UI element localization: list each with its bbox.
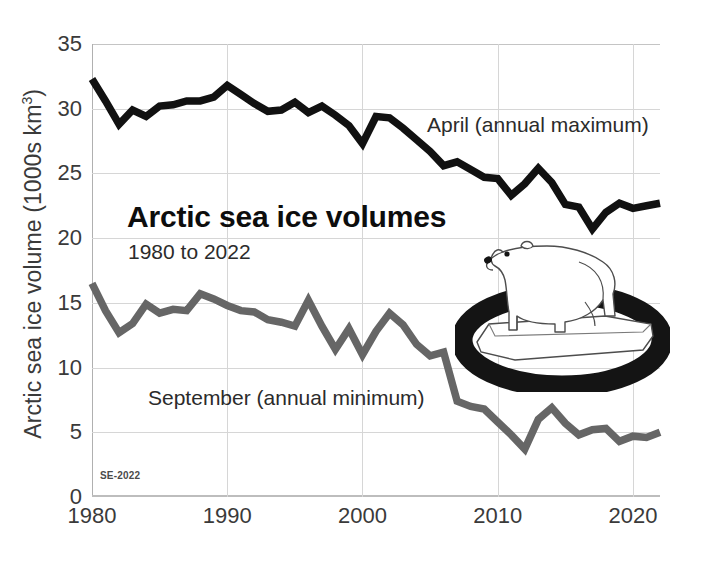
y-tick-label: 30 [42, 96, 82, 122]
polar-bear-icon [455, 232, 670, 392]
y-axis-title-exponent: 3 [19, 97, 35, 105]
x-tick-label: 2010 [473, 503, 522, 529]
x-tick-label: 2020 [608, 503, 657, 529]
september-series-label: September (annual minimum) [148, 386, 425, 410]
polar-bear-illustration [455, 232, 670, 392]
chart-figure: Arctic sea ice volume (1000s km3) 051015… [0, 0, 708, 564]
y-axis-ticks: 05101520253035 [42, 0, 82, 564]
x-tick-label: 2000 [338, 503, 387, 529]
chart-subtitle: 1980 to 2022 [128, 240, 251, 264]
y-tick-label: 35 [42, 31, 82, 57]
y-tick-label: 5 [42, 419, 82, 445]
chart-title: Arctic sea ice volumes [127, 200, 446, 234]
bear-ear [521, 242, 533, 249]
y-tick-label: 25 [42, 160, 82, 186]
x-tick-label: 1980 [68, 503, 117, 529]
source-watermark: SE-2022 [100, 470, 140, 481]
y-tick-label: 20 [42, 225, 82, 251]
x-tick-label: 1990 [203, 503, 252, 529]
april-series-label: April (annual maximum) [427, 113, 649, 137]
y-tick-label: 15 [42, 290, 82, 316]
y-tick-label: 10 [42, 355, 82, 381]
bear-eye [504, 251, 509, 256]
